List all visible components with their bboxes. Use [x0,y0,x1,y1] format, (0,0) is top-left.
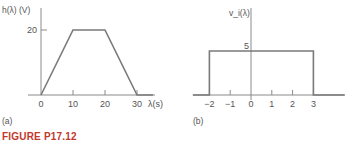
x-tick-label: 10 [68,99,78,109]
y-axis-label: v_i(λ) [229,8,250,18]
figure-p17-12: 010203020h(λ) (V)λ(s)(a) −2−101235v_i(λ)… [0,0,361,146]
x-tick-label: 2 [290,99,295,109]
y-tick-label: 20 [27,25,37,35]
x-tick-label: −1 [225,99,235,109]
signal-curve [41,30,153,95]
x-axis-label: λ(s) [148,99,163,109]
x-tick-label: 30 [132,99,142,109]
panel-b-chart: −2−101235v_i(λ)(b) [193,8,345,126]
panel-a-chart: 010203020h(λ) (V)λ(s)(a) [2,5,163,126]
panel-label: (b) [193,116,204,126]
x-tick-label: 1 [269,99,274,109]
x-tick-label: 0 [248,99,253,109]
x-tick-label: 20 [100,99,110,109]
x-tick-label: −2 [204,99,214,109]
y-tick-label: 5 [244,41,249,51]
panel-label: (a) [2,116,13,126]
figure-caption: FIGURE P17.12 [2,131,77,142]
y-axis-label: h(λ) (V) [2,5,31,15]
x-tick-label: 0 [38,99,43,109]
x-tick-label: 3 [311,99,316,109]
signal-curve [193,51,345,95]
